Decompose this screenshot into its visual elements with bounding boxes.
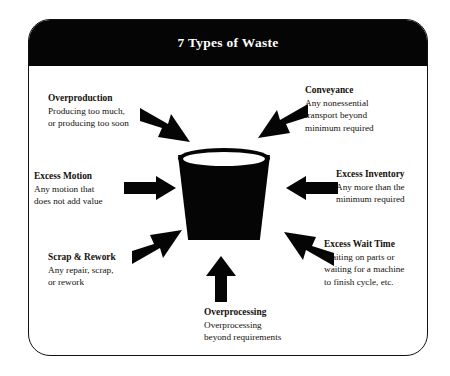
waste-description-line: Producing too much,: [48, 105, 168, 117]
waste-description-line: beyond requirements: [204, 331, 344, 343]
bucket-rim: [178, 148, 270, 169]
waste-description-line: Any more than the: [336, 181, 444, 193]
page-title: 7 Types of Waste: [177, 35, 278, 51]
waste-description-line: or rework: [48, 276, 163, 288]
bucket-opening: [183, 152, 265, 166]
waste-description-line: Overprocessing: [204, 319, 344, 331]
waste-heading: Excess Inventory: [336, 168, 444, 180]
diagram-canvas: 7 Types of Waste: [0, 0, 450, 376]
waste-label-overproduction: Overproduction Producing too much, or pr…: [48, 92, 168, 130]
waste-heading: Excess Wait Time: [324, 238, 444, 250]
arrow-left-icon: [286, 176, 338, 200]
diagram-title-bar: 7 Types of Waste: [29, 20, 427, 66]
waste-description-line: Any motion that: [34, 183, 144, 195]
waste-bucket-icon: [178, 148, 270, 240]
waste-heading: Conveyance: [305, 84, 425, 96]
waste-label-overprocessing: Overprocessing Overprocessing beyond req…: [204, 306, 344, 344]
waste-label-conveyance: Conveyance Any nonessential transport be…: [305, 84, 425, 134]
waste-description-line: Waiting on parts or: [324, 251, 444, 263]
waste-description-line: or producing too soon: [48, 117, 168, 129]
waste-heading: Scrap & Rework: [48, 251, 163, 263]
waste-description-line: Any repair, scrap,: [48, 264, 163, 276]
waste-description-line: waiting for a machine: [324, 263, 444, 275]
waste-description-line: transport beyond: [305, 109, 425, 121]
waste-description-line: Any nonessential: [305, 97, 425, 109]
waste-label-excess-inventory: Excess Inventory Any more than the minim…: [336, 168, 444, 206]
waste-description-line: to finish cycle, etc.: [324, 276, 444, 288]
waste-description-line: does not add value: [34, 195, 144, 207]
waste-heading: Overprocessing: [204, 306, 344, 318]
arrow-down-left-icon: [256, 100, 308, 142]
waste-description-line: minimum required: [305, 122, 425, 134]
waste-heading: Excess Motion: [34, 170, 144, 182]
waste-label-scrap-rework: Scrap & Rework Any repair, scrap, or rew…: [48, 251, 163, 289]
waste-description-line: minimum required: [336, 193, 444, 205]
waste-label-excess-motion: Excess Motion Any motion that does not a…: [34, 170, 144, 208]
arrow-up-icon: [206, 256, 236, 302]
waste-heading: Overproduction: [48, 92, 168, 104]
waste-label-excess-wait-time: Excess Wait Time Waiting on parts or wai…: [324, 238, 444, 288]
